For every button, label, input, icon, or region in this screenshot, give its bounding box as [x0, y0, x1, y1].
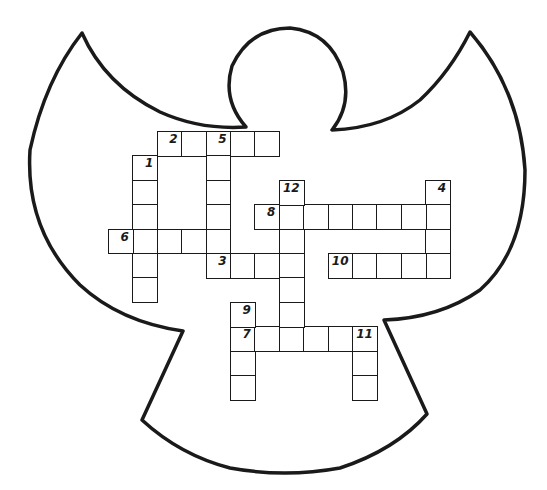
crossword-cell[interactable]: 11: [352, 326, 378, 352]
crossword-cell[interactable]: 9: [230, 302, 256, 328]
crossword-grid: 125346711891012: [0, 0, 547, 490]
clue-number: 9: [243, 304, 251, 316]
crossword-cell[interactable]: [279, 229, 305, 255]
crossword-cell[interactable]: [132, 253, 158, 279]
clue-number: 2: [169, 133, 177, 145]
crossword-cell[interactable]: [206, 229, 232, 255]
clue-number: 5: [218, 133, 226, 145]
clue-number: 12: [283, 182, 300, 194]
crossword-cell[interactable]: [401, 204, 427, 230]
crossword-cell[interactable]: [279, 302, 305, 328]
crossword-cell[interactable]: [401, 253, 427, 279]
crossword-cell[interactable]: 8: [254, 204, 280, 230]
crossword-cell[interactable]: [279, 253, 305, 279]
crossword-cell[interactable]: [376, 253, 402, 279]
clue-number: 3: [218, 255, 226, 267]
crossword-cell[interactable]: [181, 131, 207, 157]
crossword-cell[interactable]: [425, 204, 451, 230]
crossword-cell[interactable]: [206, 204, 232, 230]
clue-number: 7: [243, 328, 251, 340]
crossword-cell[interactable]: [206, 155, 232, 181]
crossword-cell[interactable]: [132, 277, 158, 303]
crossword-cell[interactable]: [303, 326, 329, 352]
crossword-cell[interactable]: [181, 229, 207, 255]
clue-number: 4: [438, 182, 446, 194]
crossword-cell[interactable]: 6: [108, 229, 134, 255]
crossword-cell[interactable]: [352, 253, 378, 279]
crossword-cell[interactable]: 10: [328, 253, 354, 279]
crossword-cell[interactable]: [376, 204, 402, 230]
crossword-cell[interactable]: [206, 180, 232, 206]
crossword-cell[interactable]: [352, 204, 378, 230]
crossword-cell[interactable]: 7: [230, 326, 256, 352]
crossword-cell[interactable]: [254, 326, 280, 352]
crossword-cell[interactable]: 12: [279, 180, 305, 206]
crossword-cell[interactable]: [328, 204, 354, 230]
crossword-cell[interactable]: [230, 375, 256, 401]
crossword-cell[interactable]: [132, 204, 158, 230]
crossword-cell[interactable]: [230, 253, 256, 279]
crossword-cell[interactable]: [254, 253, 280, 279]
crossword-cell[interactable]: [352, 351, 378, 377]
clue-number: 11: [356, 328, 373, 340]
crossword-cell[interactable]: 1: [132, 155, 158, 181]
crossword-cell[interactable]: [157, 229, 183, 255]
crossword-cell[interactable]: [230, 131, 256, 157]
crossword-cell[interactable]: [230, 351, 256, 377]
crossword-cell[interactable]: [279, 204, 305, 230]
crossword-cell[interactable]: [425, 253, 451, 279]
crossword-cell[interactable]: [303, 204, 329, 230]
clue-number: 6: [121, 231, 129, 243]
crossword-cell[interactable]: [279, 277, 305, 303]
clue-number: 8: [267, 206, 275, 218]
clue-number: 10: [332, 255, 349, 267]
crossword-cell[interactable]: [132, 180, 158, 206]
crossword-cell[interactable]: 5: [206, 131, 232, 157]
crossword-cell[interactable]: [132, 229, 158, 255]
crossword-cell[interactable]: [279, 326, 305, 352]
crossword-cell[interactable]: [328, 326, 354, 352]
crossword-cell[interactable]: 3: [206, 253, 232, 279]
clue-number: 1: [145, 157, 153, 169]
crossword-cell[interactable]: 4: [425, 180, 451, 206]
crossword-cell[interactable]: [254, 131, 280, 157]
crossword-cell[interactable]: [352, 375, 378, 401]
crossword-cell[interactable]: 2: [157, 131, 183, 157]
crossword-cell[interactable]: [425, 229, 451, 255]
